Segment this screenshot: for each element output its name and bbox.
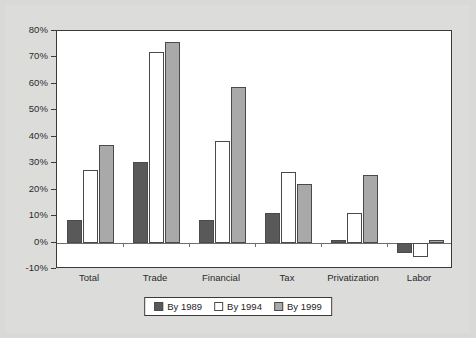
bar-financial-by-1989 [199, 220, 214, 242]
legend-item-by-1999[interactable]: By 1999 [274, 301, 322, 312]
x-axis-label-labor: Labor [407, 272, 431, 283]
y-axis-tick [51, 136, 56, 137]
plot-inner [57, 31, 451, 267]
y-axis-tick-label: 50% [4, 103, 48, 114]
x-axis-label-total: Total [79, 272, 99, 283]
bar-tax-by-1994 [281, 172, 296, 242]
bar-trade-by-1994 [149, 52, 164, 242]
chart-legend: By 1989By 1994By 1999 [144, 297, 332, 316]
legend-swatch-icon [154, 302, 163, 311]
bar-total-by-1994 [83, 170, 98, 243]
legend-label: By 1999 [287, 301, 322, 312]
bar-total-by-1999 [99, 145, 114, 243]
legend-item-by-1989[interactable]: By 1989 [154, 301, 202, 312]
x-axis-label-trade: Trade [143, 272, 167, 283]
y-axis-tick [51, 30, 56, 31]
bar-privatization-by-1994 [347, 213, 362, 242]
bar-labor-by-1994 [413, 243, 428, 258]
bar-total-by-1989 [67, 220, 82, 242]
bar-tax-by-1989 [265, 213, 280, 242]
legend-swatch-icon [214, 302, 223, 311]
y-axis-tick [51, 109, 56, 110]
x-axis-tick [189, 243, 190, 247]
plot-area [56, 30, 452, 268]
y-axis-tick-label: 30% [4, 156, 48, 167]
y-axis-tick-label: 60% [4, 77, 48, 88]
y-axis-tick-label: 20% [4, 183, 48, 194]
bar-trade-by-1989 [133, 162, 148, 243]
x-axis-labels: TotalTradeFinancialTaxPrivatizationLabor [56, 272, 452, 288]
bar-financial-by-1994 [215, 141, 230, 243]
x-axis-tick [387, 243, 388, 247]
bar-labor-by-1999 [429, 240, 444, 243]
legend-item-by-1994[interactable]: By 1994 [214, 301, 262, 312]
bar-tax-by-1999 [297, 184, 312, 242]
y-axis-tick [51, 83, 56, 84]
y-axis-labels: 80%70%60%50%40%30%20%10%0%-10% [0, 0, 48, 338]
x-axis-label-privatization: Privatization [327, 272, 379, 283]
legend-swatch-icon [274, 302, 283, 311]
y-axis-tick-label: 10% [4, 209, 48, 220]
y-axis-tick [51, 268, 56, 269]
x-axis-tick [123, 243, 124, 247]
legend-label: By 1994 [227, 301, 262, 312]
bar-privatization-by-1989 [331, 240, 346, 243]
x-axis-tick [321, 243, 322, 247]
y-axis-tick [51, 242, 56, 243]
y-axis-tick-label: 80% [4, 24, 48, 35]
bar-labor-by-1989 [397, 243, 412, 254]
bar-privatization-by-1999 [363, 175, 378, 242]
zero-baseline [57, 243, 451, 244]
bar-trade-by-1999 [165, 42, 180, 243]
legend-label: By 1989 [167, 301, 202, 312]
x-axis-label-tax: Tax [280, 272, 295, 283]
x-axis-tick [255, 243, 256, 247]
y-axis-tick [51, 56, 56, 57]
y-axis-tick [51, 162, 56, 163]
y-axis-tick [51, 189, 56, 190]
y-axis-tick-label: 0% [4, 236, 48, 247]
y-axis-tick-label: 70% [4, 50, 48, 61]
chart-figure: 80%70%60%50%40%30%20%10%0%-10% TotalTrad… [0, 0, 476, 338]
bar-financial-by-1999 [231, 87, 246, 243]
y-axis-tick [51, 215, 56, 216]
y-axis-tick-label: 40% [4, 130, 48, 141]
x-axis-label-financial: Financial [202, 272, 240, 283]
y-axis-tick-label: -10% [4, 262, 48, 273]
